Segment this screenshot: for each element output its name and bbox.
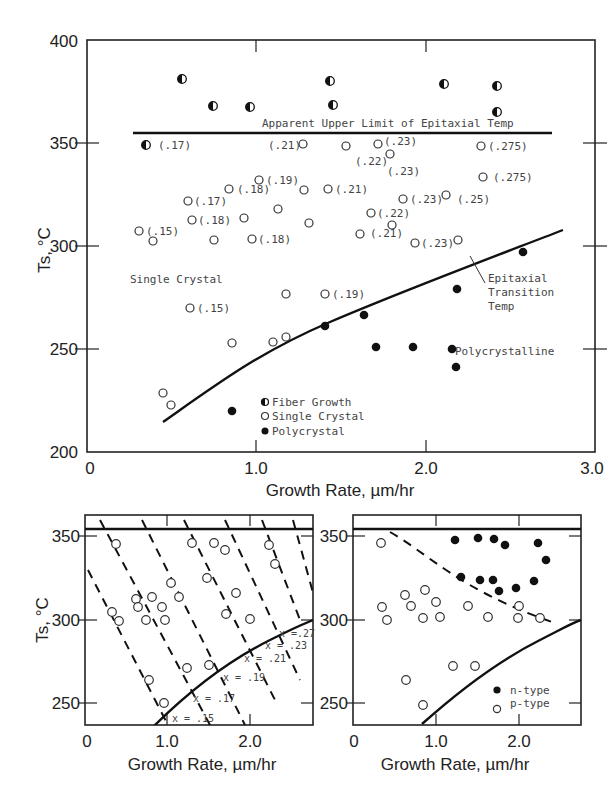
bl-ytick-250: 250 — [52, 694, 80, 713]
half-filled-marker — [326, 77, 335, 86]
legend-p-type-label: p-type — [510, 697, 550, 710]
legend-polycrystal-label: Polycrystal — [272, 425, 345, 438]
legend-n-type-icon — [493, 686, 500, 693]
series-fiber-growth — [142, 75, 502, 150]
upper-limit-label: Apparent Upper Limit of Epitaxial Temp — [262, 117, 514, 130]
svg-text:(.25): (.25) — [457, 193, 490, 206]
svg-text:(.23): (.23) — [384, 135, 417, 148]
svg-text:(.15): (.15) — [146, 225, 179, 238]
svg-text:(.22): (.22) — [355, 155, 388, 168]
main-chart: 400 350 300 250 200 0 1.0 2.0 3.0 Growth… — [35, 32, 607, 500]
bottom-right-chart: 350 300 250 0 1.0 2.0 Growth Rate, µm/hr — [320, 515, 581, 774]
iso-line-x27 — [293, 520, 315, 600]
half-filled-marker — [329, 101, 338, 110]
single-crystal-region-label: Single Crystal — [130, 273, 223, 286]
main-ytick-400: 400 — [50, 32, 78, 51]
iso-label-x17: x = .17 — [193, 693, 235, 704]
svg-text:(.275): (.275) — [493, 171, 533, 184]
svg-text:(.23): (.23) — [387, 165, 420, 178]
transition-label-line1: Epitaxial — [488, 272, 548, 285]
half-filled-marker — [209, 102, 218, 111]
svg-text:(.23): (.23) — [421, 237, 454, 250]
svg-text:(.275): (.275) — [488, 140, 528, 153]
main-legend: Fiber Growth Single Crystal Polycrystal — [262, 396, 365, 438]
main-xtick-3: 3.0 — [580, 459, 604, 478]
half-filled-marker — [493, 82, 502, 91]
br-xtick-2: 2.0 — [507, 732, 531, 751]
half-filled-marker — [246, 103, 255, 112]
svg-text:(.19): (.19) — [332, 288, 365, 301]
transition-label-line3: Temp — [488, 300, 515, 313]
bl-ytick-300: 300 — [52, 611, 80, 630]
main-x-axis-label: Growth Rate, µm/hr — [266, 481, 415, 500]
iso-label-x27: x =.27 — [279, 628, 315, 639]
transition-label-line2: Transition — [488, 286, 554, 299]
main-xtick-0: 0 — [85, 459, 94, 478]
bl-y-axis-label: Ts, °C — [33, 597, 52, 643]
bottom-left-chart: 350 300 250 0 1.0 2.0 Growth Rate, µm/hr… — [33, 515, 315, 774]
polycrystalline-label: Polycrystalline — [455, 345, 554, 358]
main-ytick-350: 350 — [50, 134, 78, 153]
legend-n-type-label: n-type — [510, 684, 550, 697]
svg-text:(.21): (.21) — [370, 227, 403, 240]
iso-label-x21: x = .21 — [244, 653, 286, 664]
main-xtick-2: 2.0 — [414, 459, 438, 478]
br-ytick-300: 300 — [320, 611, 348, 630]
bl-xtick-1: 1.0 — [155, 732, 179, 751]
main-xtick-1: 1.0 — [244, 459, 268, 478]
legend-single-crystal-icon — [262, 413, 269, 420]
svg-text:(.21): (.21) — [335, 183, 368, 196]
bl-xtick-2: 2.0 — [238, 732, 262, 751]
half-filled-marker — [493, 108, 502, 117]
svg-text:(.21): (.21) — [268, 139, 301, 152]
half-filled-marker — [142, 141, 151, 150]
svg-text:(.17): (.17) — [194, 195, 227, 208]
br-ytick-350: 350 — [320, 527, 348, 546]
legend-fiber-growth-icon — [262, 399, 269, 406]
iso-label-x23: x = .23 — [265, 640, 307, 651]
iso-line-x15 — [88, 570, 168, 725]
legend-polycrystal-icon — [262, 428, 269, 435]
legend-single-crystal-label: Single Crystal — [272, 410, 365, 423]
br-xtick-0: 0 — [349, 732, 358, 751]
main-ytick-200: 200 — [50, 443, 78, 462]
svg-text:(.19): (.19) — [266, 174, 299, 187]
svg-text:(.18): (.18) — [258, 233, 291, 246]
point-label: (.17) — [158, 139, 191, 152]
iso-label-x15: x = .15 — [172, 713, 214, 724]
figure: 400 350 300 250 200 0 1.0 2.0 3.0 Growth… — [0, 0, 614, 802]
iso-label-x19: x = .19 — [223, 672, 265, 683]
br-n-type-points — [451, 534, 551, 596]
br-ytick-250: 250 — [320, 694, 348, 713]
bl-x-axis-label: Growth Rate, µm/hr — [128, 755, 277, 774]
br-x-axis-label: Growth Rate, µm/hr — [381, 755, 530, 774]
single-crystal-point-labels: (.21) (.22) (.23) (.23) (.275) (.275) (.… — [146, 135, 533, 315]
main-ticks — [75, 40, 607, 452]
svg-text:(.23): (.23) — [410, 193, 443, 206]
main-y-axis-label: Ts, °C — [35, 227, 54, 273]
legend-p-type-icon — [493, 705, 500, 712]
legend-fiber-growth-label: Fiber Growth — [272, 396, 351, 409]
svg-text:(.22): (.22) — [377, 207, 410, 220]
br-transition-curve — [422, 620, 581, 724]
iso-line-x23 — [262, 520, 300, 620]
series-polycrystal — [228, 248, 528, 416]
bl-xtick-0: 0 — [82, 732, 91, 751]
epitaxial-transition-curve — [163, 230, 563, 422]
main-ytick-250: 250 — [50, 340, 78, 359]
svg-text:(.15): (.15) — [197, 302, 230, 315]
br-legend: n-type p-type — [493, 684, 549, 713]
half-filled-marker — [178, 75, 187, 84]
half-filled-marker — [440, 80, 449, 89]
svg-text:(.18): (.18) — [198, 214, 231, 227]
br-xtick-1: 1.0 — [424, 732, 448, 751]
bl-ytick-350: 350 — [52, 527, 80, 546]
